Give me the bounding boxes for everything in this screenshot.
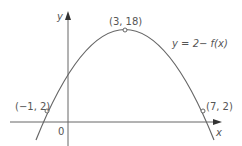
graph-figure: y x 0 (3, 18) (−1, 2) (7, 2) y = 2− f(x) bbox=[0, 0, 242, 146]
point-label-right: (7, 2) bbox=[206, 101, 233, 112]
point-marker-max bbox=[123, 28, 127, 32]
point-marker-right bbox=[201, 109, 205, 113]
point-label-left: (−1, 2) bbox=[15, 101, 50, 112]
point-label-max: (3, 18) bbox=[109, 16, 142, 27]
y-axis-arrow-icon bbox=[65, 11, 71, 20]
origin-label: 0 bbox=[58, 126, 64, 137]
curve-equation-label: y = 2− f(x) bbox=[171, 38, 228, 49]
x-axis-arrow-icon bbox=[213, 119, 222, 125]
y-axis-label: y bbox=[56, 11, 64, 22]
x-axis-label: x bbox=[215, 127, 222, 138]
